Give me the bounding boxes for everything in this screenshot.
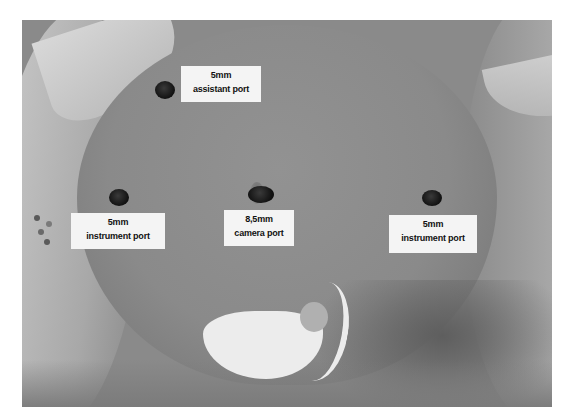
skin-marks xyxy=(34,215,64,255)
right-instrument-port-name: instrument port xyxy=(389,231,477,245)
assistant-port-marker xyxy=(155,81,175,99)
left-instrument-port-label: 5mm instrument port xyxy=(71,213,165,249)
assistant-port-name: assistant port xyxy=(181,82,261,96)
left-instrument-port-size: 5mm xyxy=(71,215,165,229)
camera-port-marker xyxy=(248,186,274,203)
left-instrument-port-marker xyxy=(109,189,129,206)
camera-port-size: 8,5mm xyxy=(224,212,294,226)
right-instrument-port-label: 5mm instrument port xyxy=(389,215,477,253)
assistant-port-label: 5mm assistant port xyxy=(181,66,261,102)
camera-port-name: camera port xyxy=(224,226,294,240)
right-instrument-port-size: 5mm xyxy=(389,217,477,231)
right-instrument-port-marker xyxy=(422,190,442,206)
assistant-port-size: 5mm xyxy=(181,68,261,82)
camera-port-label: 8,5mm camera port xyxy=(224,210,294,246)
left-instrument-port-name: instrument port xyxy=(71,229,165,243)
